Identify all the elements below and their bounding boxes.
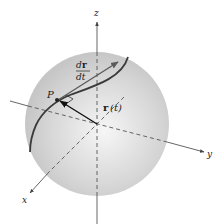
point-p xyxy=(55,98,59,102)
position-vector-label: r (t) xyxy=(103,102,122,113)
sphere-curve-diagram: z y x P r (t) d r dt xyxy=(0,0,222,224)
svg-text:(t): (t) xyxy=(110,102,122,113)
z-axis-label: z xyxy=(93,8,99,18)
point-p-label: P xyxy=(46,89,54,100)
x-axis-label: x xyxy=(22,195,27,205)
svg-text:dt: dt xyxy=(76,72,86,82)
svg-text:r: r xyxy=(103,102,109,113)
svg-text:r: r xyxy=(82,60,87,70)
y-axis-label: y xyxy=(206,149,213,159)
